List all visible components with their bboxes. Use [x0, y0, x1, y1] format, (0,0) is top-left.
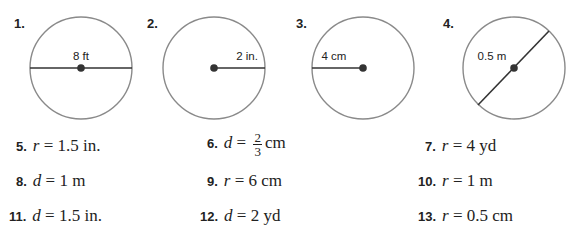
equals: =: [41, 206, 59, 225]
circle-figure-3: 4 cm: [312, 17, 414, 119]
value: 2 yd: [251, 206, 281, 225]
fraction-denominator: 3: [253, 145, 262, 158]
figure-1-label: 8 ft: [73, 50, 90, 62]
problem-number: 13.: [418, 209, 436, 224]
value: 1 m: [59, 171, 85, 190]
problem-13: 13.r = 0.5 cm: [418, 206, 513, 226]
equals: =: [448, 136, 466, 155]
problem-7: 7.r = 4 yd: [425, 136, 496, 156]
fraction: 23: [253, 131, 262, 158]
equals: =: [449, 171, 467, 190]
problem-8: 8.d = 1 m: [16, 171, 85, 191]
value: 0.5 cm: [467, 206, 513, 225]
value: 1 m: [467, 171, 493, 190]
problem-number: 10.: [418, 174, 436, 189]
equals: =: [232, 133, 250, 152]
variable: d: [224, 206, 233, 225]
center-dot-1: [77, 64, 85, 72]
problem-10: 10.r = 1 m: [418, 171, 493, 191]
figure-4-label: 0.5 m: [478, 50, 507, 62]
circle-figure-1: 8 ft: [30, 17, 132, 119]
equals: =: [230, 171, 248, 190]
figure-2-label: 2 in.: [236, 50, 258, 62]
variable: r: [442, 171, 449, 190]
equals: =: [41, 171, 59, 190]
problem-number: 12.: [200, 209, 218, 224]
equals: =: [449, 206, 467, 225]
variable: d: [32, 206, 41, 225]
value: 1.5 in.: [59, 206, 102, 225]
problem-12: 12.d = 2 yd: [200, 206, 280, 226]
center-dot-2: [210, 64, 218, 72]
problem-6: 6.d = 23cm: [207, 131, 286, 158]
center-dot-3: [359, 64, 367, 72]
value: 4 yd: [467, 136, 497, 155]
unit: cm: [265, 133, 286, 152]
figure-3-label: 4 cm: [322, 50, 347, 62]
problem-number: 11.: [9, 209, 26, 224]
center-dot-4: [510, 64, 518, 72]
equals: =: [233, 206, 251, 225]
problem-9: 9.r = 6 cm: [207, 171, 282, 191]
variable: r: [442, 206, 449, 225]
fraction-numerator: 2: [253, 131, 262, 145]
circle-figures: 8 ft 2 in. 4 cm 0.5 m: [0, 0, 575, 125]
equals: =: [39, 136, 57, 155]
problem-number: 5.: [16, 139, 27, 154]
circle-figure-2: 2 in.: [163, 17, 265, 119]
problem-number: 6.: [207, 136, 218, 151]
problem-number: 9.: [207, 174, 218, 189]
problem-5: 5.r = 1.5 in.: [16, 136, 101, 156]
value: 6 cm: [249, 171, 283, 190]
problem-number: 7.: [425, 139, 436, 154]
problem-11: 11.d = 1.5 in.: [9, 206, 102, 226]
circle-figure-4: 0.5 m: [463, 17, 565, 119]
value: 1.5 in.: [58, 136, 101, 155]
problem-number: 8.: [16, 174, 27, 189]
